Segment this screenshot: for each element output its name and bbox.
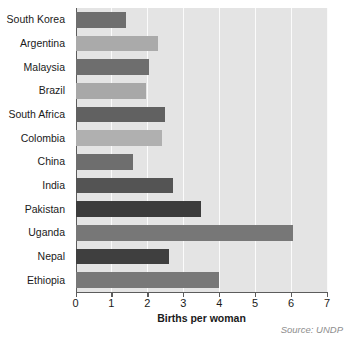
bar-row	[76, 154, 328, 170]
category-label-india: India	[42, 180, 65, 191]
bar-row	[76, 36, 328, 52]
bar-india	[76, 178, 173, 194]
bar-row	[76, 178, 328, 194]
x-axis-line	[76, 292, 328, 293]
category-label-colombia: Colombia	[21, 133, 65, 144]
category-label-south-korea: South Korea	[7, 14, 65, 25]
category-label-brazil: Brazil	[39, 85, 65, 96]
xtick-label-0: 0	[72, 298, 78, 309]
xtick-label-1: 1	[108, 298, 114, 309]
bar-row	[76, 12, 328, 28]
bar-row	[76, 130, 328, 146]
bar-south-korea	[76, 12, 126, 28]
bar-uganda	[76, 225, 293, 241]
category-label-south-africa: South Africa	[8, 109, 65, 120]
xtick-label-2: 2	[144, 298, 150, 309]
bar-argentina	[76, 36, 159, 52]
bar-row	[76, 201, 328, 217]
xtick-label-7: 7	[324, 298, 330, 309]
category-label-argentina: Argentina	[20, 38, 65, 49]
bar-brazil	[76, 83, 146, 99]
bar-row	[76, 59, 328, 75]
bar-row	[76, 83, 328, 99]
x-axis-title: Births per woman	[76, 313, 328, 324]
category-labels: South KoreaArgentinaMalaysiaBrazilSouth …	[0, 8, 71, 292]
bar-colombia	[76, 130, 162, 146]
xtick-label-6: 6	[288, 298, 294, 309]
bar-row	[76, 225, 328, 241]
bar-chart: South KoreaArgentinaMalaysiaBrazilSouth …	[0, 0, 349, 337]
bar-china	[76, 154, 133, 170]
category-label-china: China	[38, 156, 65, 167]
bar-row	[76, 249, 328, 265]
bar-row	[76, 107, 328, 123]
source-note: Source: UNDP	[281, 325, 343, 335]
category-label-uganda: Uganda	[28, 227, 65, 238]
chart-screenshot: South KoreaArgentinaMalaysiaBrazilSouth …	[0, 0, 349, 337]
bar-malaysia	[76, 59, 150, 75]
category-label-pakistan: Pakistan	[25, 204, 65, 215]
xtick-label-5: 5	[252, 298, 258, 309]
xtick-label-4: 4	[216, 298, 222, 309]
bar-nepal	[76, 249, 169, 265]
xtick-label-3: 3	[180, 298, 186, 309]
bars-layer	[76, 8, 328, 292]
bar-ethiopia	[76, 272, 220, 288]
gridline-7	[327, 8, 328, 292]
category-label-nepal: Nepal	[38, 251, 65, 262]
bar-south-africa	[76, 107, 166, 123]
category-label-ethiopia: Ethiopia	[27, 275, 65, 286]
bar-pakistan	[76, 201, 202, 217]
bar-row	[76, 272, 328, 288]
category-label-malaysia: Malaysia	[24, 62, 65, 73]
